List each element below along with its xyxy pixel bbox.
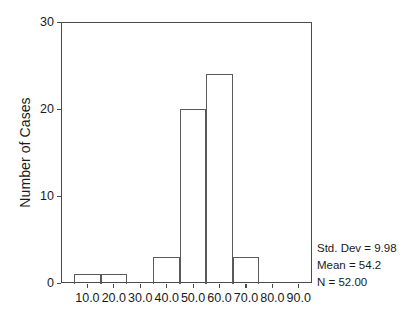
histogram-bar-45-55 [180, 109, 206, 284]
y-axis-title: Number of Cases [14, 22, 36, 283]
x-tick-mark-10.0 [87, 284, 88, 288]
x-tick-mark-20.0 [113, 284, 114, 288]
x-tick-mark-90.0 [298, 284, 299, 288]
x-tick-mark-30.0 [140, 284, 141, 288]
histogram-bar-65-75 [233, 257, 259, 284]
histogram-bar-35-45 [153, 257, 179, 284]
y-tick-label-10: 10 [14, 190, 54, 202]
x-tick-label-90.0: 90.0 [279, 291, 319, 305]
x-tick-mark-80.0 [272, 284, 273, 288]
y-tick-label-30: 30 [14, 16, 54, 28]
plot-area [61, 22, 312, 283]
n-text: N = 52.00 [317, 274, 407, 291]
x-tick-mark-70.0 [245, 284, 246, 288]
y-tick-label-20: 20 [14, 103, 54, 115]
histogram-chart: Number of Cases 0102030 10.020.030.040.0… [0, 0, 407, 320]
x-tick-mark-50.0 [193, 284, 194, 288]
histogram-bar-55-65 [206, 74, 232, 284]
std-dev-text: Std. Dev = 9.98 [317, 240, 407, 257]
mean-text: Mean = 54.2 [317, 257, 407, 274]
histogram-bar-15-25 [101, 274, 127, 284]
histogram-bar-5-15 [74, 274, 100, 284]
x-tick-mark-40.0 [166, 284, 167, 288]
statistics-annotation: Std. Dev = 9.98 Mean = 54.2 N = 52.00 [317, 240, 407, 291]
x-tick-mark-60.0 [219, 284, 220, 288]
y-tick-label-0: 0 [14, 277, 54, 289]
